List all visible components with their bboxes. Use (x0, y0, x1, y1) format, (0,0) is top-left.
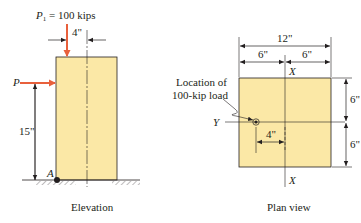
plan-caption: Plan view (267, 201, 311, 213)
support-label: A (46, 167, 54, 179)
column-diagram: P1 = 100 kips 4" P 15" A Elevation X X Y (0, 0, 361, 223)
height-top-label: 6" (350, 93, 360, 105)
load-offset-label: 4" (266, 128, 276, 140)
load-location-point (254, 120, 257, 123)
y-axis-label: Y (213, 116, 221, 128)
ground-hatch-right (112, 181, 140, 185)
elevation-caption: Elevation (71, 201, 114, 213)
width-total-label: 12" (277, 32, 293, 44)
width-left-label: 6" (258, 48, 268, 60)
plan-view: X X Y 12" 6" 6" 6" 6" Location of (172, 32, 360, 213)
axial-load-label: P1 = 100 kips (35, 9, 96, 23)
x-axis-label-bottom: X (288, 174, 297, 186)
height-bottom-label: 6" (350, 138, 360, 150)
load-location-label-line2: 100-kip load (172, 89, 228, 101)
elevation-view: P1 = 100 kips 4" P 15" A Elevation (12, 9, 140, 213)
lateral-load-label: P (12, 76, 20, 88)
column-elevation (56, 57, 117, 180)
eccentricity-label: 4" (72, 26, 82, 38)
width-right-label: 6" (302, 48, 312, 60)
support-point-a (54, 177, 60, 183)
x-axis-label-top: X (288, 65, 297, 77)
load-location-label-line1: Location of (176, 76, 227, 88)
height-dim-label: 15" (19, 125, 35, 137)
